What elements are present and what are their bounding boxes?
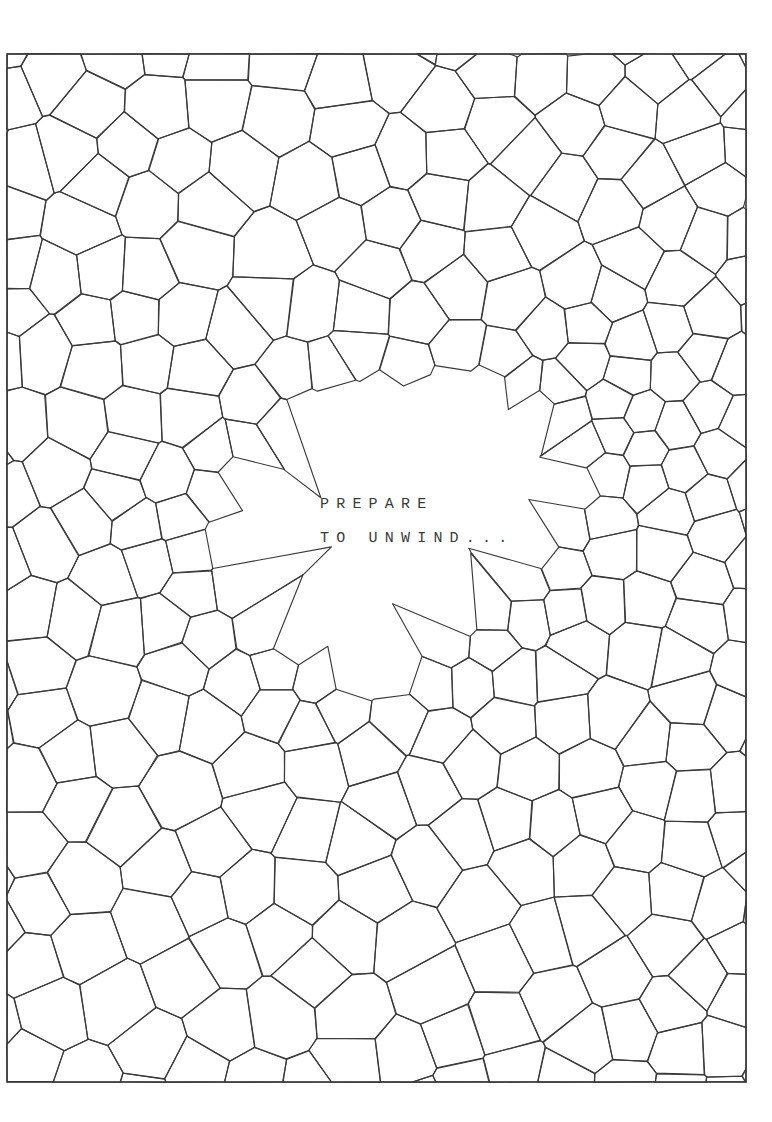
mosaic-cell xyxy=(55,294,116,346)
mosaic-cell xyxy=(692,54,746,117)
mosaic-cell xyxy=(7,743,57,812)
mosaic-cell xyxy=(607,622,663,690)
mosaic-cell xyxy=(538,1047,595,1082)
mosaic-cell xyxy=(650,352,700,402)
mosaic-cell xyxy=(639,186,698,252)
mosaic-cell xyxy=(605,310,657,361)
mosaic-cell xyxy=(478,787,533,851)
mosaic-cell xyxy=(666,723,727,771)
mosaic-cell xyxy=(687,509,746,562)
mosaic-cell xyxy=(433,1059,490,1082)
mosaic-cell xyxy=(296,197,366,272)
mosaic-cell xyxy=(391,825,462,907)
mosaic-cell xyxy=(452,657,495,718)
mosaic-cell xyxy=(212,547,332,619)
mosaic-cell xyxy=(255,336,312,400)
mosaic-cell xyxy=(409,707,473,763)
mosaic-cell xyxy=(21,54,86,117)
mosaic-cell xyxy=(591,265,647,323)
mosaic-cell xyxy=(508,599,550,650)
mosaic-cell xyxy=(509,897,573,974)
mosaic-cell xyxy=(664,769,715,822)
mosaic-cell xyxy=(80,958,156,1045)
mosaic-cell xyxy=(725,537,747,589)
mosaic-cell xyxy=(718,394,746,447)
mosaic-cell xyxy=(716,256,746,306)
mosaic-cell xyxy=(592,418,634,455)
mosaic-cell xyxy=(428,799,494,870)
mosaic-cell xyxy=(564,303,613,344)
mosaic-cell xyxy=(363,54,436,114)
mosaic-cell xyxy=(7,933,64,999)
mosaic-cell xyxy=(221,782,297,853)
mosaic-cell xyxy=(183,54,250,80)
mosaic-cell xyxy=(90,718,157,788)
mosaic-cell xyxy=(203,648,260,716)
mosaic-cell xyxy=(541,396,592,456)
mosaic-cell xyxy=(375,112,427,190)
mosaic-cell xyxy=(655,79,721,143)
mosaic-cell xyxy=(601,999,657,1061)
mosaic-cell xyxy=(86,786,162,867)
mosaic-cell xyxy=(540,358,587,404)
mosaic-cell xyxy=(691,868,746,940)
mosaic-cell xyxy=(655,1074,706,1082)
mosaic-cell xyxy=(544,589,587,635)
mosaic-cell xyxy=(219,364,281,424)
mosaic-cell xyxy=(165,1036,230,1083)
mosaic-cell xyxy=(665,598,728,653)
mosaic-cell xyxy=(623,571,676,628)
mosaic-cell xyxy=(723,588,746,643)
mosaic-cell xyxy=(246,976,317,1059)
mosaic-cell xyxy=(308,336,356,391)
mosaic-cell xyxy=(83,469,146,521)
mosaic-cell xyxy=(286,265,339,342)
mosaic-cell xyxy=(90,432,159,481)
mosaic-cell xyxy=(685,474,736,521)
mosaic-cell xyxy=(720,90,745,130)
mosaic-cell xyxy=(483,1041,545,1082)
mosaic-cell xyxy=(142,54,189,78)
mosaic-cell xyxy=(271,798,341,863)
mosaic-cell xyxy=(684,276,742,339)
mosaic-cell xyxy=(185,80,252,142)
mosaic-cell xyxy=(559,738,624,798)
mosaic-cells-group xyxy=(7,54,747,1083)
mosaic-cell xyxy=(420,1005,485,1068)
mosaic-cell xyxy=(375,1014,436,1083)
mosaic-cell xyxy=(361,186,421,248)
mosaic-cell xyxy=(531,153,598,222)
mosaic-cell xyxy=(315,689,371,743)
mosaic-cell xyxy=(39,720,96,783)
mosaic-cell xyxy=(148,128,211,193)
mosaic-cell xyxy=(621,138,685,208)
mosaic-cell xyxy=(490,118,562,196)
mosaic-cell xyxy=(160,221,234,290)
mosaic-cell xyxy=(175,807,252,877)
mosaic-cell xyxy=(7,288,49,336)
mosaic-cell xyxy=(141,593,191,655)
mosaic-cell xyxy=(655,400,701,450)
mosaic-cell xyxy=(179,689,245,764)
mosaic-cell xyxy=(393,604,471,668)
mosaic-cell xyxy=(643,303,693,353)
mosaic-cell xyxy=(554,895,625,966)
mosaic-cell xyxy=(455,54,517,99)
mosaic-cell xyxy=(246,903,313,976)
mosaic-cell xyxy=(606,811,665,873)
mosaic-cell xyxy=(599,76,658,139)
mosaic-cell xyxy=(186,469,243,522)
mosaic-cell xyxy=(293,646,336,703)
mosaic-cell xyxy=(166,529,213,572)
mosaic-cell xyxy=(7,812,68,878)
mosaic-cell xyxy=(694,429,746,479)
mosaic-cell xyxy=(585,496,639,539)
mosaic-cell xyxy=(35,115,98,193)
mosaic-cell xyxy=(283,1051,331,1083)
mosaic-cell xyxy=(683,380,733,433)
mosaic-cell xyxy=(623,430,669,465)
mosaic-cell xyxy=(572,787,632,844)
mosaic-cell xyxy=(212,732,285,798)
mosaic-cell xyxy=(594,1059,657,1082)
mosaic-cell xyxy=(338,722,406,787)
